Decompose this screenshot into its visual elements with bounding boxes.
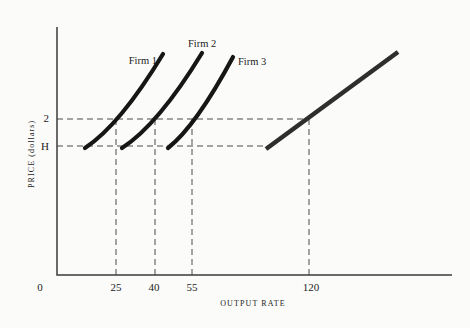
x-tick-0: 0 — [37, 281, 43, 293]
firm3-mc-curve — [168, 57, 233, 148]
x-axis-title: OUTPUT RATE — [220, 299, 286, 308]
firm3-label: Firm 3 — [238, 56, 266, 67]
industry-supply-curve — [266, 52, 398, 149]
x-tick-40: 40 — [149, 281, 161, 293]
firm2-label: Firm 2 — [188, 38, 216, 49]
y-tick-2: 2 — [44, 112, 50, 124]
supply-curves-chart: Firm 1 Firm 2 Firm 3 2 H 0 25 40 55 120 … — [0, 0, 470, 328]
x-tick-55: 55 — [187, 281, 199, 293]
x-tick-120: 120 — [303, 281, 320, 293]
firm1-mc-curve — [85, 54, 163, 148]
x-tick-25: 25 — [111, 281, 123, 293]
y-tick-h: H — [41, 140, 49, 152]
y-axis-title: PRICE (dollars) — [27, 120, 36, 188]
figure-canvas: Firm 1 Firm 2 Firm 3 2 H 0 25 40 55 120 … — [0, 0, 470, 328]
firm1-label: Firm 1 — [129, 55, 157, 66]
